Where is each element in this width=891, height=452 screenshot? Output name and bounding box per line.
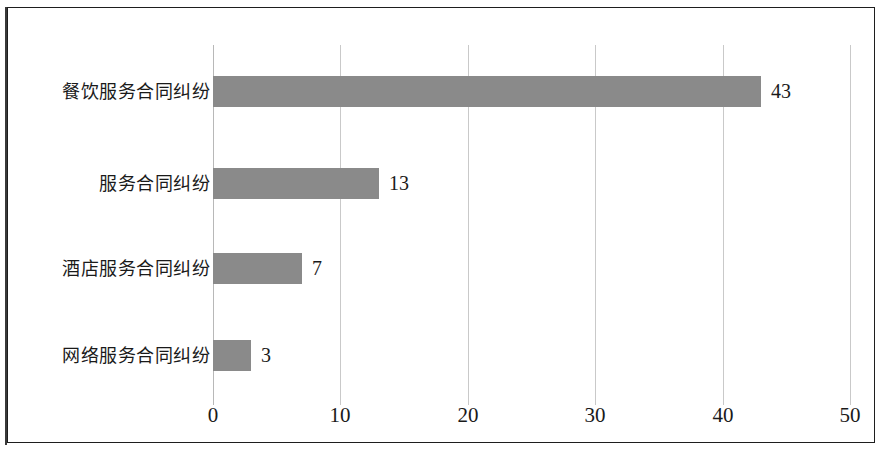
bar[interactable]	[213, 340, 251, 371]
bar[interactable]	[213, 76, 761, 107]
bar[interactable]	[213, 253, 302, 284]
bar-value-label: 43	[771, 76, 791, 107]
bar-value-label: 7	[312, 253, 322, 284]
x-tick-label: 50	[820, 403, 880, 428]
bar[interactable]	[213, 168, 379, 199]
bar-value-label: 3	[261, 340, 271, 371]
category-label: 服务合同纠纷	[0, 168, 210, 199]
x-tick-label: 40	[693, 403, 753, 428]
category-label: 网络服务合同纠纷	[0, 340, 210, 371]
x-tick-label: 10	[310, 403, 370, 428]
bar-chart-plot-area: 餐饮服务合同纠纷服务合同纠纷酒店服务合同纠纷网络服务合同纠纷 431373 01…	[0, 0, 891, 452]
chart-page: 餐饮服务合同纠纷服务合同纠纷酒店服务合同纠纷网络服务合同纠纷 431373 01…	[0, 0, 891, 452]
x-tick-label: 20	[438, 403, 498, 428]
category-label: 酒店服务合同纠纷	[0, 253, 210, 284]
x-tick-label: 30	[565, 403, 625, 428]
category-label: 餐饮服务合同纠纷	[0, 76, 210, 107]
gridline-50	[850, 45, 851, 405]
bar-value-label: 13	[389, 168, 409, 199]
x-tick-label: 0	[183, 403, 243, 428]
